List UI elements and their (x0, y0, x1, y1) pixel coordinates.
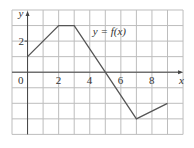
x-tick-label: 6 (118, 74, 124, 86)
y-axis-arrow-icon (26, 11, 30, 16)
curve-annotation: y = f(x) (92, 25, 126, 38)
x-tick-label: 0 (18, 74, 24, 86)
y-tick-label: 2 (19, 35, 25, 47)
x-tick-label: 4 (87, 74, 93, 86)
x-tick-label: 8 (149, 74, 155, 86)
x-tick-label: 2 (56, 74, 62, 86)
x-axis-label: x (178, 74, 184, 86)
function-graph: yx024682y = f(x) (0, 0, 194, 148)
y-axis-label: y (18, 7, 24, 19)
